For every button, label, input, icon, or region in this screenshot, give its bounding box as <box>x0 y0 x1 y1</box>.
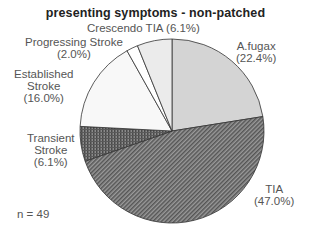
sample-size-annotation: n = 49 <box>17 208 49 220</box>
label-afugax: A.fugax(22.4%) <box>236 40 276 64</box>
pie-slices <box>80 39 264 223</box>
label-transient-stroke: TransientStroke(6.1%) <box>27 132 75 168</box>
label-progressing-stroke: Progressing Stroke(2.0%) <box>25 36 123 60</box>
label-crescendo-tia: Crescendo TIA (6.1%) <box>87 22 200 34</box>
label-established-stroke: EstablishedStroke(16.0%) <box>14 68 73 104</box>
label-tia: TIA(47.0%) <box>254 183 294 207</box>
